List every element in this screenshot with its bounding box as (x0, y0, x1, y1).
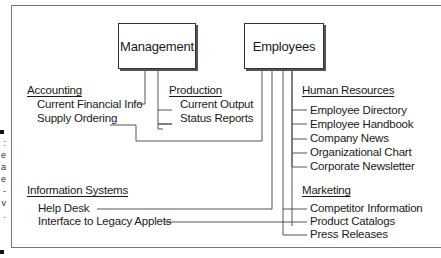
production-item: Current Output (180, 98, 253, 111)
production-heading: Production (169, 84, 222, 96)
hr-item: Corporate Newsletter (310, 160, 415, 173)
information-systems-heading: Information Systems (27, 184, 128, 196)
accounting-item: Current Financial Info (37, 98, 143, 111)
employees-box: Employees (244, 23, 324, 69)
accounting-heading: Accounting (27, 84, 82, 96)
accounting-item: Supply Ordering (37, 112, 117, 125)
connector-press-releases (283, 222, 307, 235)
marketing-item: Product Catalogs (310, 215, 395, 228)
connector-hr-trunk (292, 68, 307, 167)
marketing-item: Competitor Information (310, 202, 423, 215)
is-item: Interface to Legacy Applets (38, 215, 171, 228)
hr-item: Organizational Chart (310, 146, 411, 159)
marketing-item: Press Releases (310, 228, 388, 241)
is-item: Help Desk (38, 202, 89, 215)
connector-production-trunk (158, 68, 163, 129)
employees-label: Employees (253, 39, 316, 54)
production-item: Status Reports (180, 112, 253, 125)
management-box: Management (118, 23, 196, 69)
marketing-heading: Marketing (302, 184, 351, 196)
hr-item: Employee Handbook (310, 118, 413, 131)
hr-item: Company News (310, 132, 389, 145)
human-resources-heading: Human Resources (302, 84, 394, 96)
management-label: Management (120, 39, 194, 54)
hr-item: Employee Directory (310, 104, 407, 117)
